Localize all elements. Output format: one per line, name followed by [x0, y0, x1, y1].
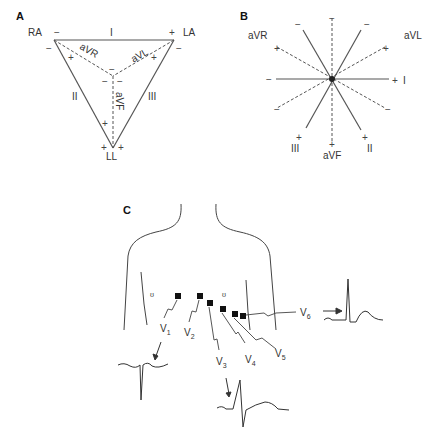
- plus-sign: +: [296, 132, 302, 143]
- vertex-ra-label: RA: [28, 27, 42, 38]
- ecg-waveform-v6: [324, 279, 383, 322]
- lead-v4-label: V4: [245, 354, 256, 367]
- torso-outline: [124, 204, 276, 330]
- axis-avl-label: aVL: [404, 30, 422, 41]
- axis-avr-label: aVR: [248, 30, 267, 41]
- panel-a-einthoven-triangle: A RA LA LL I II III aVR aVL aVF − + − − …: [16, 10, 196, 162]
- panel-c-label: C: [123, 204, 131, 216]
- arrows: [153, 308, 342, 397]
- minus-sign: −: [274, 104, 280, 115]
- minus-sign: −: [46, 43, 52, 54]
- minus-sign: −: [176, 43, 182, 54]
- lead-avf-label: aVF: [114, 92, 125, 110]
- minus-sign: −: [102, 76, 108, 87]
- minus-sign: −: [117, 76, 123, 87]
- vertex-la-label: LA: [183, 27, 196, 38]
- lead-iii-label: III: [148, 91, 156, 102]
- lead-v3-label: V3: [216, 356, 227, 369]
- electrode-v2: [197, 293, 203, 299]
- plus-sign: +: [383, 43, 389, 54]
- lead-ii-label: II: [72, 91, 78, 102]
- electrode-v5: [232, 311, 238, 317]
- lead-i-label: I: [110, 27, 113, 38]
- minus-sign: −: [109, 64, 115, 75]
- nipple-right: ʊ: [150, 291, 154, 298]
- ecg-waveform-v1: [118, 363, 168, 400]
- lead-wires: [164, 300, 296, 350]
- lead-v6-label: V6: [300, 307, 311, 320]
- plus-sign: +: [274, 43, 280, 54]
- minus-sign: −: [364, 19, 370, 30]
- electrode-v1: [175, 293, 181, 299]
- plus-sign: +: [329, 139, 335, 150]
- panel-a-label: A: [16, 10, 24, 22]
- plus-sign: +: [101, 142, 107, 153]
- center-point: [329, 76, 335, 82]
- panel-b-label: B: [240, 10, 248, 22]
- plus-sign: +: [102, 118, 108, 129]
- axis-avf-label: aVF: [323, 150, 341, 161]
- electrode-v6: [240, 313, 246, 319]
- lead-v2-label: V2: [184, 327, 195, 340]
- electrode-v3: [207, 300, 213, 306]
- panel-c-precordial-leads: C ʊ ʊ V1 V2 V3 V4 V5 V6: [118, 204, 383, 427]
- ecg-lead-diagram: A RA LA LL I II III aVR aVL aVF − + − − …: [0, 0, 436, 443]
- panel-b-hexaxial-reference: B aVR aVL I III aVF II − − − + + − + − −…: [240, 10, 422, 161]
- plus-sign: +: [151, 52, 157, 63]
- nipple-left: ʊ: [222, 291, 226, 298]
- lead-ii-line: [54, 40, 113, 148]
- minus-sign: −: [329, 13, 335, 24]
- plus-sign: +: [392, 75, 398, 86]
- plus-sign: +: [169, 27, 175, 38]
- minus-sign: −: [54, 27, 60, 38]
- minus-sign: −: [295, 19, 301, 30]
- plus-sign: +: [118, 142, 124, 153]
- vertex-ll-label: LL: [106, 151, 118, 162]
- minus-sign: −: [385, 104, 391, 115]
- electrode-v4: [220, 306, 226, 312]
- axis-ii-label: II: [367, 143, 373, 154]
- lead-v1-label: V1: [160, 323, 171, 336]
- plus-sign: +: [362, 132, 368, 143]
- lead-avl-label: aVL: [129, 46, 150, 65]
- axis-i-label: I: [403, 75, 406, 86]
- plus-sign: +: [68, 52, 74, 63]
- axis-iii-label: III: [291, 143, 299, 154]
- minus-sign: −: [266, 74, 272, 85]
- lead-v5-label: V5: [275, 348, 286, 361]
